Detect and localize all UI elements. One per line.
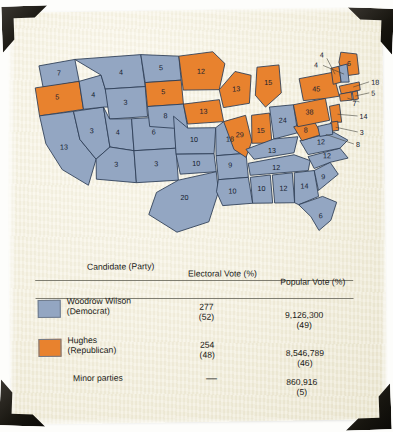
column-header-popular: Popular Vote (%) bbox=[280, 277, 345, 287]
state-label-LA: 10 bbox=[228, 186, 236, 195]
electoral-value: 254 bbox=[200, 340, 214, 350]
state-label-ND: 5 bbox=[159, 63, 163, 72]
state-label-NV: 3 bbox=[90, 126, 94, 135]
state-label-MI: 15 bbox=[264, 78, 272, 87]
state-label-WI: 13 bbox=[232, 84, 240, 93]
popular-percent: (46) bbox=[297, 358, 312, 368]
state-label-FL: 6 bbox=[319, 211, 323, 220]
state-label-NH: 4 bbox=[314, 60, 318, 69]
state-label-NY: 45 bbox=[312, 84, 320, 93]
popular-percent: (49) bbox=[296, 320, 311, 330]
state-label-MA: 18 bbox=[371, 78, 379, 87]
state-label-AR: 9 bbox=[228, 160, 232, 169]
candidate-name: Woodrow Wilson bbox=[67, 296, 131, 307]
table-row: Hughes (Republican) bbox=[67, 335, 116, 356]
state-label-IN: 15 bbox=[257, 126, 265, 135]
state-label-MS: 10 bbox=[257, 184, 265, 193]
state-label-DE: 3 bbox=[360, 128, 364, 137]
state-label-SC: 9 bbox=[321, 172, 325, 181]
state-label-AL: 12 bbox=[279, 184, 287, 193]
legend-swatch-republican bbox=[38, 339, 61, 357]
state-label-VT: 4 bbox=[320, 50, 324, 59]
popular-value: 860,916 bbox=[286, 377, 317, 387]
popular-vote-hughes: 8,546,789 (46) bbox=[286, 348, 324, 369]
table-row: Woodrow Wilson (Democrat) bbox=[67, 296, 132, 318]
candidate-party: (Republican) bbox=[67, 345, 116, 356]
state-label-IA: 13 bbox=[199, 107, 207, 116]
state-label-IL: 29 bbox=[236, 130, 244, 139]
popular-percent: (5) bbox=[297, 387, 308, 397]
state-label-NJ: 14 bbox=[360, 112, 368, 121]
state-label-OR: 5 bbox=[55, 93, 59, 102]
column-header-candidate: Candidate (Party) bbox=[87, 261, 154, 272]
state-label-WV: 8 bbox=[304, 125, 308, 134]
state-label-WY: 3 bbox=[123, 98, 127, 107]
figure-root: 7 5 13 3 4 4 3 4 3 6 3 5 5 8 10 10 20 12… bbox=[0, 0, 393, 432]
state-label-CO: 6 bbox=[152, 127, 156, 136]
state-label-MN: 12 bbox=[197, 67, 205, 76]
candidate-name: Minor parties bbox=[73, 373, 123, 384]
electoral-percent: (48) bbox=[200, 350, 215, 360]
electoral-percent: (52) bbox=[199, 312, 214, 322]
candidate-party: (Democrat) bbox=[67, 306, 110, 316]
state-label-MO: 18 bbox=[226, 134, 234, 143]
state-label-GA: 14 bbox=[300, 181, 308, 190]
state-label-CT: 7 bbox=[352, 99, 356, 108]
state-label-AZ: 3 bbox=[114, 160, 118, 169]
electoral-vote-hughes: 254 (48) bbox=[200, 340, 215, 361]
state-label-KY: 13 bbox=[268, 146, 276, 155]
electoral-value: 277 bbox=[199, 302, 213, 312]
table-row: Minor parties bbox=[73, 373, 123, 384]
column-header-electoral: Electoral Vote (%) bbox=[188, 268, 257, 278]
state-label-PA: 38 bbox=[305, 107, 313, 116]
state-label-RI: 5 bbox=[371, 89, 375, 98]
state-label-NE: 8 bbox=[164, 111, 168, 120]
state-label-WA: 7 bbox=[57, 69, 61, 78]
popular-vote-wilson: 9,126,300 (49) bbox=[285, 310, 323, 331]
state-label-UT: 4 bbox=[116, 128, 120, 137]
candidate-name: Hughes bbox=[67, 335, 97, 345]
popular-vote-minor: 860,916 (5) bbox=[286, 377, 317, 398]
state-label-SD: 5 bbox=[161, 87, 165, 96]
state-label-CA: 13 bbox=[60, 142, 68, 151]
state-label-MT: 4 bbox=[119, 68, 123, 77]
leader-VT bbox=[327, 58, 335, 74]
state-label-ID: 4 bbox=[91, 90, 95, 99]
state-label-KS: 10 bbox=[190, 135, 198, 144]
electoral-map: 7 5 13 3 4 4 3 4 3 6 3 5 5 8 10 10 20 12… bbox=[17, 44, 368, 258]
state-label-NC: 12 bbox=[323, 151, 331, 160]
state-NJ bbox=[329, 104, 341, 122]
state-label-MD: 8 bbox=[356, 140, 360, 149]
popular-value: 8,546,789 bbox=[286, 348, 324, 358]
state-label-OK: 10 bbox=[192, 159, 200, 168]
electoral-vote-wilson: 277 (52) bbox=[199, 302, 214, 323]
electoral-vote-minor: — bbox=[206, 372, 217, 385]
state-label-NM: 3 bbox=[154, 159, 158, 168]
results-table: Candidate (Party) Electoral Vote (%) Pop… bbox=[35, 253, 357, 389]
state-label-OH: 24 bbox=[279, 116, 287, 125]
state-label-TN: 12 bbox=[272, 163, 280, 172]
state-MD bbox=[318, 123, 333, 136]
state-label-ME: 6 bbox=[347, 59, 351, 68]
state-label-TX: 20 bbox=[181, 193, 189, 202]
legend-swatch-democrat bbox=[38, 300, 61, 318]
state-label-VA: 12 bbox=[317, 137, 325, 146]
popular-value: 9,126,300 bbox=[285, 310, 323, 320]
